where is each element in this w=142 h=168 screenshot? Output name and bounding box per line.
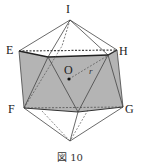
vertex-label-i: I [66,2,70,16]
vertex-label-h: H [119,44,128,58]
icosahedron-diagram: I E H O r F G 図 10 [0,0,142,168]
vertex-label-f: F [8,102,15,116]
vertex-label-e: E [6,43,13,57]
center-point-o [67,77,70,80]
vertex-label-g: G [125,102,134,116]
figure-caption: 図 10 [57,152,83,163]
radius-label-r: r [89,66,93,76]
top-hidden-edges [19,20,117,51]
shaded-band [19,50,123,112]
center-label-o: O [64,63,73,77]
